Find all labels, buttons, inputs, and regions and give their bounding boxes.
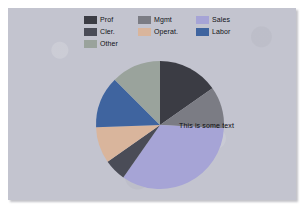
legend-swatch-cler <box>84 28 97 36</box>
legend-label-cler: Cler. <box>100 26 115 37</box>
legend-swatch-other <box>84 40 97 48</box>
legend-label-other: Other <box>100 38 118 49</box>
legend-item-labor[interactable]: Labor <box>196 26 250 37</box>
legend-swatch-prof <box>84 16 97 24</box>
legend-swatch-mgmt <box>138 16 151 24</box>
legend-item-mgmt[interactable]: Mgmt <box>138 14 196 25</box>
legend-item-operat[interactable]: Operat. <box>138 26 196 37</box>
chart-legend: Prof Mgmt Sales Cler. Operat. Labor <box>84 14 250 49</box>
legend-swatch-labor <box>196 28 209 36</box>
screenshot-root: This is some text Prof Mgmt Sales Cler. … <box>0 0 304 209</box>
legend-label-labor: Labor <box>212 26 230 37</box>
legend-item-sales[interactable]: Sales <box>196 14 250 25</box>
legend-item-prof[interactable]: Prof <box>84 14 138 25</box>
legend-label-sales: Sales <box>212 14 230 25</box>
legend-item-cler[interactable]: Cler. <box>84 26 138 37</box>
legend-swatch-sales <box>196 16 209 24</box>
legend-label-mgmt: Mgmt <box>154 14 172 25</box>
legend-item-other[interactable]: Other <box>84 38 138 49</box>
pie-annotation-text: This is some text <box>179 122 234 129</box>
legend-label-operat: Operat. <box>154 26 178 37</box>
legend-swatch-operat <box>138 28 151 36</box>
legend-label-prof: Prof <box>100 14 113 25</box>
chart-panel: This is some text Prof Mgmt Sales Cler. … <box>8 8 296 200</box>
